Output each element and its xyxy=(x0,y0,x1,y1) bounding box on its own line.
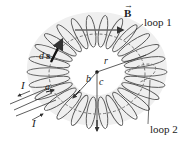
current-label-bottom: I xyxy=(32,118,36,129)
ds-label-d: d xyxy=(39,51,44,61)
r-label: r xyxy=(104,56,108,66)
b-label: b xyxy=(86,74,91,84)
loop1-label: loop 1 xyxy=(144,17,172,28)
a-label: a xyxy=(45,82,50,92)
current-label-top: I xyxy=(21,80,25,91)
b-vector-bar: → xyxy=(124,1,133,10)
c-label: c xyxy=(99,77,103,87)
loop2-label: loop 2 xyxy=(150,124,178,135)
current-in-arrow xyxy=(18,91,30,96)
ds-label-s: s xyxy=(46,50,50,61)
